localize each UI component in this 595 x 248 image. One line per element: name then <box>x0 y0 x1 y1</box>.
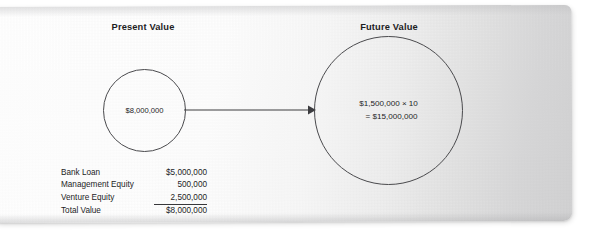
present-value-amount: $8,000,000 <box>125 106 163 115</box>
table-row: Venture Equity 2,500,000 <box>61 192 207 205</box>
future-value-expression: $1,500,000 × 10 <box>359 98 418 110</box>
row-label-total: Total Value <box>61 204 154 217</box>
figure-content: Present Value Future Value $8,000,000 $1… <box>0 0 595 248</box>
table-row-total: Total Value $8,000,000 <box>61 204 207 217</box>
flow-arrow-icon <box>184 101 316 119</box>
row-value-total: $8,000,000 <box>154 204 207 217</box>
future-value-result: = $15,000,000 <box>359 111 418 123</box>
table-row: Management Equity 500,000 <box>61 179 207 191</box>
row-label: Management Equity <box>61 179 154 191</box>
row-label: Bank Loan <box>61 167 154 179</box>
present-value-header: Present Value <box>112 22 175 32</box>
future-value-circle: $1,500,000 × 10 = $15,000,000 <box>314 36 463 185</box>
capital-structure-table-body: Bank Loan $5,000,000 Management Equity 5… <box>61 167 207 217</box>
present-value-circle: $8,000,000 <box>103 69 186 152</box>
figure-root: Present Value Future Value $8,000,000 $1… <box>0 0 595 248</box>
row-value: 2,500,000 <box>154 192 207 205</box>
future-value-text-block: $1,500,000 × 10 = $15,000,000 <box>359 98 418 122</box>
capital-structure-table: Bank Loan $5,000,000 Management Equity 5… <box>61 167 207 217</box>
future-value-header: Future Value <box>360 22 418 32</box>
table-row: Bank Loan $5,000,000 <box>61 167 207 179</box>
row-value: 500,000 <box>154 179 207 191</box>
row-value: $5,000,000 <box>154 167 207 179</box>
row-label: Venture Equity <box>61 192 154 205</box>
